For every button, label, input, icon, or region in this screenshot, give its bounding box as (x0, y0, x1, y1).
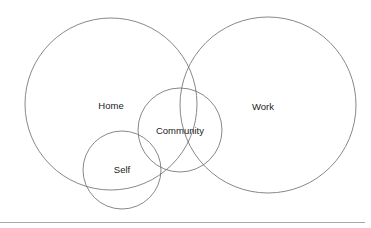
venn-diagram: Home Work Community Self (0, 0, 371, 228)
self-label: Self (114, 164, 131, 175)
community-label: Community (156, 125, 204, 136)
home-label: Home (98, 100, 123, 111)
work-label: Work (252, 101, 274, 112)
